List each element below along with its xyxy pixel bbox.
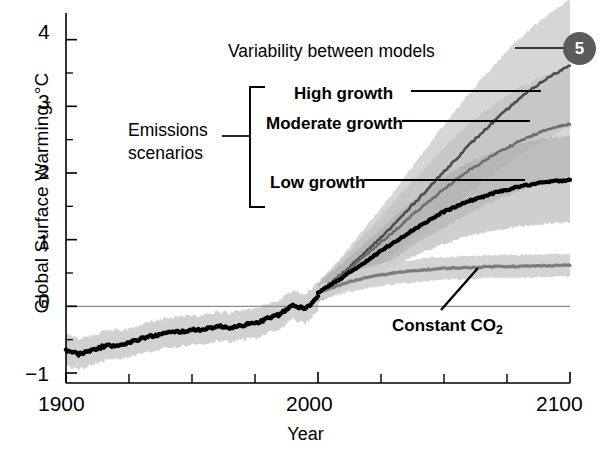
x-tick-label-2100: 2100 [536, 392, 583, 416]
chart-canvas [0, 0, 611, 454]
y-tick-label-3: 3 [38, 90, 50, 114]
annotation-emissions-line1: Emissions [128, 120, 208, 141]
y-tick-label-0: 0 [38, 289, 50, 313]
figure-number-badge: 5 [563, 32, 596, 65]
annotation-constant-co2-subscript: 2 [496, 323, 503, 337]
x-tick-label-1900: 1900 [38, 392, 85, 416]
uncertainty-band-historical-observed-modelled- [66, 282, 318, 371]
figure-root: Global Surface Warming, °C Year 4 3 2 1 … [0, 0, 611, 454]
annotation-emissions-line2: scenarios [128, 143, 203, 164]
y-tick-label-4: 4 [38, 20, 50, 44]
bracket-emissions-scenarios [250, 87, 265, 207]
y-tick-label-2: 2 [38, 160, 50, 184]
y-tick-label-neg1: −1 [25, 362, 49, 386]
annotation-constant-co2-text: Constant CO [392, 316, 496, 335]
annotation-moderate-growth: Moderate growth [266, 114, 403, 134]
y-tick-label-1: 1 [38, 230, 50, 254]
x-axis-title: Year [0, 424, 611, 445]
x-tick-label-2000: 2000 [286, 392, 333, 416]
annotation-low-growth: Low growth [270, 173, 365, 193]
annotation-variability: Variability between models [228, 41, 435, 62]
annotation-constant-co2: Constant CO2 [392, 316, 503, 337]
annotation-high-growth: High growth [294, 84, 393, 104]
